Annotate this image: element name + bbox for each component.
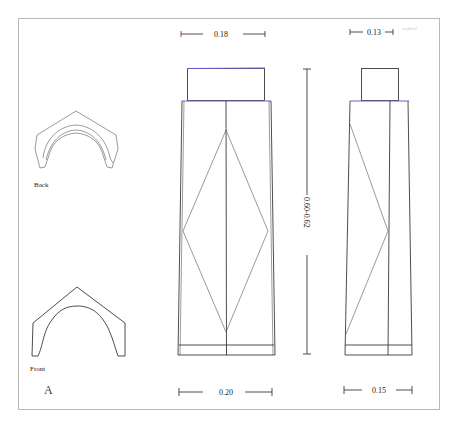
side-left-edge: [345, 101, 350, 355]
back-label: Back: [34, 181, 49, 189]
front-outline: [32, 287, 125, 356]
dim-front-bottom-width: 0.20: [179, 388, 272, 397]
technical-drawing: scale/ref Back Front A: [0, 0, 459, 423]
front-diamond: [183, 130, 268, 332]
panel-label: A: [44, 383, 53, 397]
corner-annotation: scale/ref: [402, 26, 418, 31]
back-arch-inner: [46, 130, 106, 160]
front-label: Front: [30, 365, 45, 373]
front-left-edge-outer: [178, 101, 182, 355]
side-diagonal: [346, 124, 388, 334]
dim-height: 0.60-0.62: [302, 69, 311, 354]
front-profile: Front: [30, 287, 125, 373]
dim-front-top-width: 0.18: [181, 30, 265, 39]
back-outer-outline: [35, 111, 118, 168]
front-elevation: [178, 68, 275, 355]
front-right-edge-inner: [269, 101, 273, 355]
back-arch-outer: [43, 125, 113, 163]
dim-side-bottom-width-label: 0.15: [372, 386, 386, 395]
side-inner-line: [388, 101, 390, 355]
dim-side-bottom-width: 0.15: [344, 386, 412, 395]
side-cap: [362, 69, 399, 101]
back-profile: Back: [34, 111, 118, 189]
front-cap: [188, 69, 265, 101]
dim-side-top-width: 0.13: [350, 28, 393, 37]
front-left-edge-inner: [180, 101, 184, 355]
dim-height-label: 0.60-0.62: [302, 197, 311, 228]
figure-frame: [19, 19, 440, 410]
side-elevation: [345, 69, 412, 356]
front-right-edge-outer: [271, 101, 275, 355]
side-right-edge: [408, 101, 412, 355]
dim-front-top-width-label: 0.18: [214, 30, 228, 39]
dim-front-bottom-width-label: 0.20: [219, 388, 233, 397]
dim-side-top-width-label: 0.13: [367, 28, 381, 37]
front-center-line: [226, 101, 227, 355]
front-cap-top-edge: [187, 68, 265, 69]
